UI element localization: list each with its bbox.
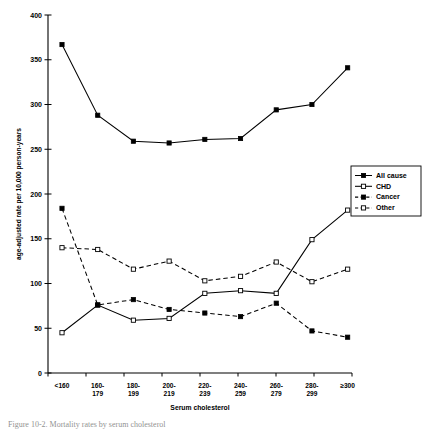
y-tick-label: 200	[30, 191, 42, 198]
legend-label: Cancer	[376, 193, 400, 200]
y-tick-label: 100	[30, 280, 42, 287]
series-line-other	[62, 248, 348, 282]
data-point-chd	[310, 238, 314, 242]
legend-marker	[361, 195, 365, 199]
legend-marker	[361, 173, 365, 177]
data-point-cancer	[274, 301, 278, 305]
data-point-chd	[60, 331, 64, 335]
x-tick-label: 200-	[163, 382, 176, 389]
x-axis-title: Serum cholesterol	[170, 404, 229, 411]
data-point-cancer	[346, 335, 350, 339]
data-point-other	[203, 279, 207, 283]
x-tick-label: 259	[235, 390, 246, 397]
data-point-other	[167, 259, 171, 263]
x-tick-label: 240-	[234, 382, 247, 389]
x-tick-label: 199	[128, 390, 139, 397]
data-point-chd	[274, 291, 278, 295]
data-point-other	[131, 267, 135, 271]
x-tick-label: 179	[92, 390, 103, 397]
y-tick-label: 250	[30, 146, 42, 153]
y-tick-label: 150	[30, 235, 42, 242]
data-point-all-cause	[238, 136, 242, 140]
x-tick-label: 260-	[270, 382, 283, 389]
data-point-chd	[167, 316, 171, 320]
legend-label: Other	[376, 204, 395, 211]
legend-label: CHD	[376, 183, 391, 190]
data-point-all-cause	[310, 102, 314, 106]
x-tick-label: 160-	[91, 382, 104, 389]
data-point-cancer	[167, 307, 171, 311]
x-tick-label: 299	[306, 390, 317, 397]
x-tick-label: <160	[55, 382, 70, 389]
data-point-cancer	[238, 315, 242, 319]
data-point-all-cause	[274, 108, 278, 112]
data-point-all-cause	[167, 141, 171, 145]
series-line-all-cause	[62, 45, 348, 143]
data-point-all-cause	[60, 42, 64, 46]
data-point-other	[60, 246, 64, 250]
figure-container: 050100150200250300350400<160160-179180-1…	[0, 0, 431, 432]
data-point-cancer	[203, 311, 207, 315]
y-tick-label: 400	[30, 12, 42, 19]
x-tick-label: 219	[164, 390, 175, 397]
data-point-all-cause	[346, 66, 350, 70]
data-point-other	[274, 260, 278, 264]
data-point-cancer	[131, 298, 135, 302]
data-point-all-cause	[96, 113, 100, 117]
x-tick-label: 220-	[198, 382, 211, 389]
data-point-chd	[131, 318, 135, 322]
data-point-all-cause	[203, 137, 207, 141]
data-point-chd	[203, 291, 207, 295]
data-point-cancer	[310, 329, 314, 333]
data-point-other	[310, 280, 314, 284]
data-point-other	[96, 247, 100, 251]
x-tick-label: 280-	[305, 382, 318, 389]
x-tick-label: 180-	[127, 382, 140, 389]
y-tick-label: 300	[30, 101, 42, 108]
data-point-other	[346, 267, 350, 271]
line-chart: 050100150200250300350400<160160-179180-1…	[0, 0, 431, 418]
data-point-cancer	[96, 303, 100, 307]
data-point-other	[238, 274, 242, 278]
figure-caption: Figure 10-2. Mortality rates by serum ch…	[8, 420, 428, 432]
legend-label: All cause	[376, 172, 407, 179]
series-line-cancer	[62, 208, 348, 337]
legend-marker	[361, 184, 365, 188]
data-point-chd	[346, 208, 350, 212]
data-point-all-cause	[131, 139, 135, 143]
data-point-chd	[238, 289, 242, 293]
legend-marker	[361, 206, 365, 210]
x-tick-label: ≥300	[340, 382, 355, 389]
x-tick-label: 279	[271, 390, 282, 397]
data-point-cancer	[60, 206, 64, 210]
y-axis-title: age-adjusted rate per 10,000 person-year…	[15, 128, 23, 260]
y-tick-label: 350	[30, 56, 42, 63]
y-tick-label: 50	[34, 325, 42, 332]
y-tick-label: 0	[38, 370, 42, 377]
x-tick-label: 239	[199, 390, 210, 397]
